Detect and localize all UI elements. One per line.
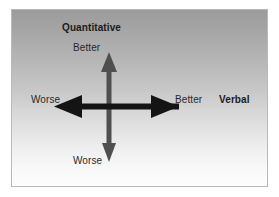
axis-label-quantitative: Quantitative (62, 23, 121, 33)
axis-tick-label-bottom-worse: Worse (73, 156, 102, 166)
figure-root: Quantitative Better Worse Better Verbal … (0, 0, 279, 197)
axis-label-verbal: Verbal (219, 95, 250, 105)
axis-tick-label-right-better: Better (175, 95, 202, 105)
axis-tick-label-top-better: Better (73, 43, 100, 53)
down-arrowhead-icon (102, 143, 116, 162)
up-arrowhead-icon (101, 52, 117, 72)
diagram-panel: Quantitative Better Worse Better Verbal … (11, 9, 268, 187)
horizontal-axis (54, 95, 179, 118)
axis-tick-label-left-worse: Worse (31, 95, 60, 105)
